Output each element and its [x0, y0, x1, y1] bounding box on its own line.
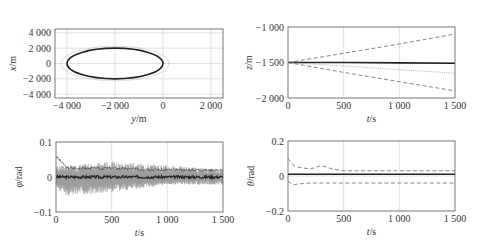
y-tick-label: −1 500: [256, 57, 284, 68]
x-tick-label: 1 500: [212, 214, 235, 225]
x-tick-label: 0: [286, 213, 291, 224]
y-tick-label: 0: [47, 172, 52, 183]
x-tick-label: 0: [286, 100, 291, 111]
plot-area: −4 000−2 00002 0004 0002 0000−2 000−4 00…: [0, 0, 240, 124]
series-dashed: [288, 181, 455, 185]
x-tick-label: −4 000: [53, 100, 81, 111]
x-tick-label: 1 000: [388, 213, 411, 224]
chart-phi-roll: 05001 0001 5000.10−0.1t/sφ/rad: [0, 124, 240, 249]
series-solid: [288, 63, 455, 64]
x-tick-label: 500: [336, 100, 351, 111]
y-tick-label: −2 000: [256, 93, 284, 104]
y-tick-label: 0.1: [40, 137, 53, 148]
x-tick-label: 1 500: [444, 213, 467, 224]
chart-theta-pitch: 05001 0001 5000.20−0.2t/sθ/rad: [240, 124, 481, 249]
series-group: [288, 159, 455, 185]
y-axis-label: z/m: [243, 55, 254, 71]
x-tick-label: 1 500: [444, 100, 467, 111]
x-tick-label: −2 000: [101, 100, 129, 111]
series-group: [288, 34, 455, 91]
x-tick-label: 0: [161, 100, 166, 111]
series-dashed: [288, 159, 455, 171]
series-dashed: [288, 34, 455, 62]
plot-area: 05001 0001 5000.10−0.1t/sφ/rad: [0, 124, 240, 249]
y-tick-label: −0.1: [34, 207, 52, 218]
y-tick-label: 4 000: [29, 27, 52, 38]
y-tick-label: −1 000: [256, 22, 284, 33]
y-tick-label: 0.2: [272, 136, 285, 147]
series-dashed: [288, 63, 455, 91]
series-group: [56, 156, 223, 195]
x-tick-label: 500: [336, 213, 351, 224]
x-tick-label: 500: [104, 214, 119, 225]
chart-z-depth: 05001 0001 500−1 000−1 500−2 000t/sz/m: [240, 0, 481, 124]
y-tick-label: 0: [279, 171, 284, 182]
x-axis-label: y/m: [130, 113, 146, 124]
x-tick-label: 0: [54, 214, 59, 225]
x-axis-label: t/s: [367, 226, 377, 237]
y-tick-label: −4 000: [23, 89, 51, 100]
y-tick-label: 2 000: [29, 43, 52, 54]
y-tick-label: −0.2: [266, 206, 284, 217]
x-axis-label: t/s: [367, 113, 377, 124]
plot-area: 05001 0001 5000.20−0.2t/sθ/rad: [240, 124, 481, 249]
y-axis-label: θ/rad: [245, 166, 256, 186]
chart-xy-trajectory: −4 000−2 00002 0004 0002 0000−2 000−4 00…: [0, 0, 240, 124]
x-tick-label: 1 000: [156, 214, 179, 225]
series-dotted: [288, 63, 455, 74]
series-dashed: [56, 156, 223, 171]
y-tick-label: −2 000: [23, 73, 51, 84]
x-axis-label: t/s: [135, 227, 145, 238]
y-tick-label: 0: [46, 58, 51, 69]
y-axis-label: x/m: [7, 56, 18, 72]
x-tick-label: 1 000: [388, 100, 411, 111]
plot-area: 05001 0001 500−1 000−1 500−2 000t/sz/m: [240, 0, 481, 124]
y-axis-label: φ/rad: [13, 166, 24, 187]
x-tick-label: 2 000: [200, 100, 223, 111]
